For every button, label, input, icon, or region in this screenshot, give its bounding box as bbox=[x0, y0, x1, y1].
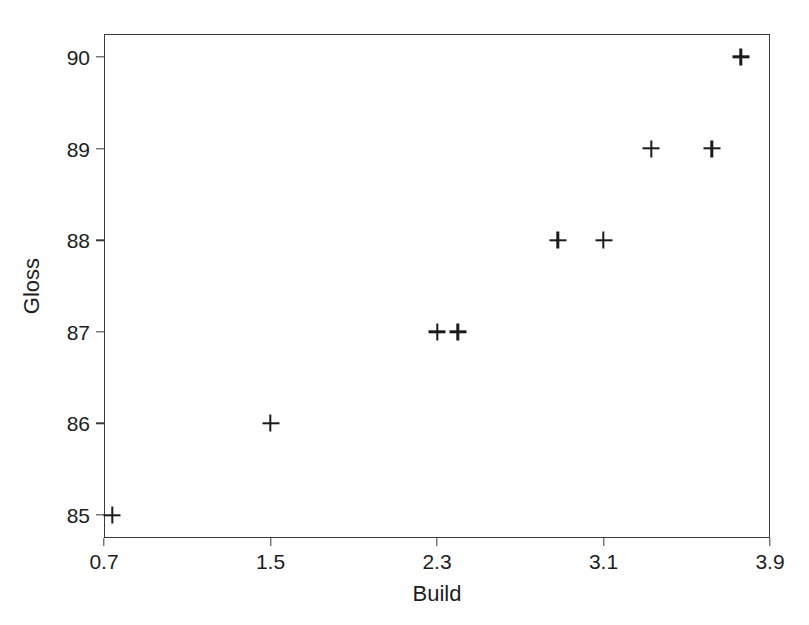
y-tick-mark bbox=[96, 239, 104, 240]
y-tick-label: 88 bbox=[52, 230, 90, 251]
plot-area-frame bbox=[104, 34, 770, 538]
y-axis-title: Gloss bbox=[21, 258, 43, 314]
x-tick-mark bbox=[603, 538, 604, 546]
x-tick-label: 3.1 bbox=[589, 551, 618, 572]
x-tick-mark bbox=[103, 538, 104, 546]
y-tick-mark bbox=[96, 331, 104, 332]
y-tick-mark bbox=[96, 56, 104, 57]
y-tick-label: 89 bbox=[52, 138, 90, 159]
y-tick-mark bbox=[96, 423, 104, 424]
y-tick-mark bbox=[96, 148, 104, 149]
y-tick-label: 85 bbox=[52, 505, 90, 526]
x-tick-mark bbox=[270, 538, 271, 546]
x-tick-label: 2.3 bbox=[422, 551, 451, 572]
x-tick-mark bbox=[436, 538, 437, 546]
x-tick-mark bbox=[769, 538, 770, 546]
x-tick-label: 0.7 bbox=[89, 551, 118, 572]
scatter-plot: 858687888990 0.71.52.33.13.9 Build Gloss bbox=[0, 0, 809, 625]
y-tick-label: 87 bbox=[52, 321, 90, 342]
x-axis-title: Build bbox=[413, 583, 462, 605]
y-tick-mark bbox=[96, 514, 104, 515]
y-tick-label: 86 bbox=[52, 413, 90, 434]
y-tick-label: 90 bbox=[52, 46, 90, 67]
x-tick-label: 1.5 bbox=[256, 551, 285, 572]
x-tick-label: 3.9 bbox=[755, 551, 784, 572]
